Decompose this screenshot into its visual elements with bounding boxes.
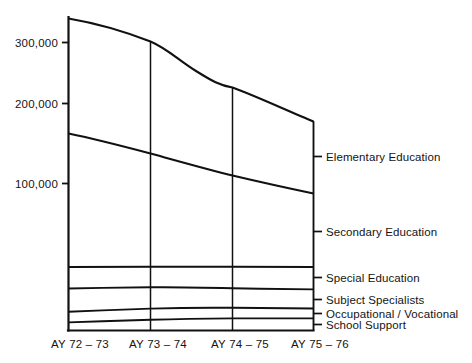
x-tick-label-ay72-73: AY 72 – 73 <box>51 338 109 350</box>
stacked-area-chart: 300,000 200,000 100,000 Elementary Educa… <box>0 0 472 363</box>
series-label-special-education: Special Education <box>326 272 420 284</box>
series-label-subject-specialists: Subject Specialists <box>326 294 425 306</box>
chart-container: 300,000 200,000 100,000 Elementary Educa… <box>0 0 472 363</box>
x-tick-label-ay73-74: AY 73 – 74 <box>129 338 187 350</box>
series-label-elementary-education: Elementary Education <box>326 151 441 163</box>
series-label-school-support: School Support <box>326 319 407 331</box>
series-label-secondary-education: Secondary Education <box>326 226 437 238</box>
x-tick-label-ay74-75: AY 74 – 75 <box>211 338 269 350</box>
y-tick-label-200k: 200,000 <box>15 98 58 110</box>
y-tick-label-300k: 300,000 <box>15 37 58 49</box>
y-tick-label-100k: 100,000 <box>15 178 58 190</box>
x-tick-label-ay75-76: AY 75 – 76 <box>291 338 349 350</box>
